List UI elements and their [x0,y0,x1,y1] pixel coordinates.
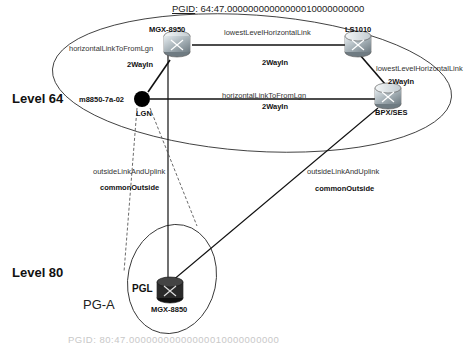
logical-group-node-dot[interactable] [134,91,150,107]
link-state-label: 2WayIn [388,78,414,86]
switch-icon-dark[interactable] [157,277,183,303]
node-label-bpxses: BPX/SES [375,109,408,117]
switch-icon[interactable] [375,83,401,109]
link-type-label: lowestLevelHorizontalLink [224,29,311,37]
pgid-header: PGID: 64:47.00000000000000010000000000 [172,4,364,14]
link-state-label: commonOutside [315,185,374,193]
pgid-label: PGID [172,3,195,14]
link-type-label: outsideLinkAndUplink [307,168,379,176]
pg-a-label: PG-A [83,298,115,311]
link-type-label: outsideLinkAndUplink [93,168,165,176]
link-type-label: horizontalLinkToFromLgn [69,45,153,53]
link-state-label: 2WayIn [262,59,288,67]
node-label-lgn: LGN [136,110,152,118]
pgid-value: : 64:47.00000000000000010000000000 [195,3,364,14]
switch-icon[interactable] [164,31,190,57]
level-64-label: Level 64 [12,92,63,105]
node-label-mgx8850: MGX-8850 [151,306,187,314]
node-label-mgx8950: MGX-8950 [149,26,185,34]
node-sublabel-lgn: m8850-7a-02 [79,96,124,104]
link-bpxses-mgx8850 [172,108,378,281]
node-role-pgl: PGL [132,284,153,294]
link-state-label: 2WayIn [127,61,153,69]
link-state-label: commonOutside [100,184,159,192]
link-type-label: horizontalLinkToFromLgn [222,92,306,100]
pgid-footer-faded: PGID: 80:47.00000000000000010000000000 [68,335,279,345]
level-80-label: Level 80 [12,266,63,279]
link-type-label: lowestLevelHorizontalLink [376,65,463,73]
node-label-ls1010: LS1010 [345,26,371,34]
link-state-label: 2WayIn [262,103,288,111]
switch-icon[interactable] [345,31,371,57]
